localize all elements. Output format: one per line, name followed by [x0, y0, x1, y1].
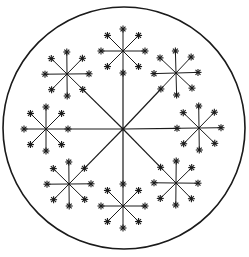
main-ray [123, 128, 177, 129]
umbellet-center [198, 127, 200, 129]
umbellet-center [68, 183, 70, 185]
main-ray [123, 89, 161, 129]
main-ray [123, 129, 161, 167]
umbellet-center [122, 205, 124, 207]
main-center [122, 128, 125, 131]
umbellet-center [175, 182, 177, 184]
main-ray [84, 129, 123, 168]
umbellet-center [45, 128, 47, 130]
umbellet-center [122, 50, 124, 52]
umbellet-center [175, 72, 177, 74]
umbel-drawing [0, 0, 249, 257]
umbel-diagram: Compound umbel diagram [0, 0, 249, 257]
main-ray [83, 89, 123, 129]
umbellet-center [66, 73, 68, 75]
